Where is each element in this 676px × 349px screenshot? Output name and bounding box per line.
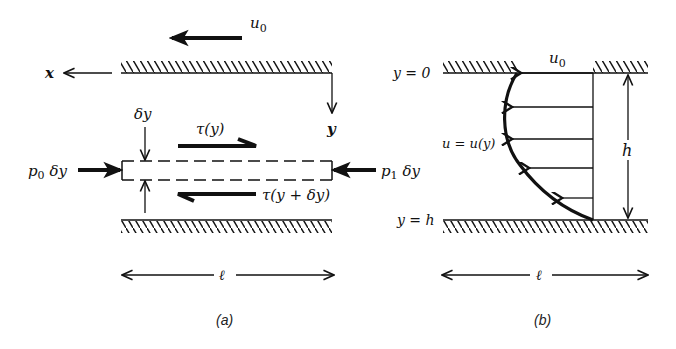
shear-bottom-arrow bbox=[178, 194, 256, 201]
shear-top-label: τ(y) bbox=[196, 120, 225, 138]
shear-top-arrow bbox=[178, 139, 256, 146]
top-wall-hatching-right bbox=[593, 61, 648, 73]
x-axis-label: x bbox=[44, 64, 55, 82]
pressure-left-label: p0 δy bbox=[28, 162, 67, 182]
top-wall-hatching-left bbox=[443, 61, 518, 73]
bottom-wall-label: y = h bbox=[396, 212, 435, 228]
profile-label: u = u(y) bbox=[442, 136, 495, 151]
top-wall-hatching bbox=[121, 61, 332, 73]
wall-velocity-label: u0 bbox=[250, 14, 267, 35]
panel-a: u0 x y δy τ(y) p0 δy p1 δy τ(y + δy) bbox=[28, 14, 420, 328]
bottom-wall-hatching bbox=[443, 221, 648, 233]
top-wall-label: y = 0 bbox=[392, 65, 431, 81]
panel-b-caption: (b) bbox=[534, 312, 551, 328]
bottom-wall-hatching bbox=[121, 221, 332, 233]
pressure-right-label: p1 δy bbox=[381, 162, 420, 182]
panel-a-caption: (a) bbox=[216, 312, 233, 328]
wall-velocity-label: u0 bbox=[549, 49, 566, 70]
length-label: ℓ bbox=[536, 267, 542, 283]
couette-flow-figure: u0 x y δy τ(y) p0 δy p1 δy τ(y + δy) bbox=[0, 0, 676, 349]
height-label: h bbox=[622, 141, 632, 160]
length-label: ℓ bbox=[219, 267, 225, 283]
delta-y-label: δy bbox=[134, 105, 152, 123]
panel-b: y = 0 u0 y = h u = u(y) h ℓ (b) bbox=[392, 49, 648, 328]
shear-bottom-label: τ(y + δy) bbox=[262, 186, 330, 204]
y-axis-label: y bbox=[326, 120, 337, 138]
